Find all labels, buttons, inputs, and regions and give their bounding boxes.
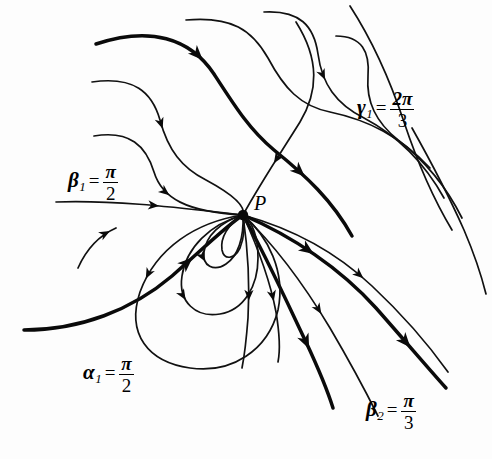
label-beta1-fraction: π2: [103, 162, 117, 203]
label-beta2-equals: =: [387, 399, 398, 420]
label-beta2-fraction: π3: [401, 391, 415, 432]
label-gamma1-symbol: γ: [357, 95, 366, 119]
streamline: [78, 228, 116, 268]
phase-portrait-canvas: [0, 0, 492, 459]
streamline: [181, 215, 258, 315]
label-beta1-subscript: 1: [79, 179, 86, 194]
label-alpha1-denominator: 2: [119, 375, 133, 395]
label-gamma1-denominator: 3: [390, 110, 414, 130]
label-gamma1-equals: =: [376, 97, 387, 118]
label-gamma1: γ1=2π3: [357, 90, 414, 131]
label-alpha1: α1=π2: [83, 355, 134, 396]
label-gamma1-fraction: 2π3: [390, 89, 414, 130]
label-beta2-symbol: β: [366, 397, 377, 421]
flow-direction-arrow-icon: [312, 302, 326, 316]
label-beta2-subscript: 2: [377, 408, 384, 423]
label-beta1-symbol: β: [68, 168, 79, 192]
flow-direction-arrow-icon: [316, 68, 329, 82]
streamline: [243, 215, 378, 416]
flow-direction-arrow-icon: [297, 333, 315, 352]
label-alpha1-fraction: π2: [119, 354, 133, 395]
flow-direction-arrow-icon: [142, 267, 155, 281]
label-beta2-denominator: 3: [401, 412, 415, 432]
label-gamma1-numerator: 2π: [390, 89, 414, 110]
label-beta1-equals: =: [89, 170, 100, 191]
streamline: [412, 128, 486, 294]
label-beta1: β1=π2: [68, 163, 118, 204]
label-alpha1-subscript: 1: [95, 371, 102, 386]
label-beta1-numerator: π: [103, 162, 117, 183]
flow-direction-arrow-icon: [267, 290, 278, 303]
phase-portrait-figure: P β1=π2 γ1=2π3 α1=π2 β2=π3: [0, 0, 492, 459]
label-alpha1-symbol: α: [83, 360, 95, 384]
flow-direction-arrow-icon: [155, 117, 167, 130]
streamline: [243, 22, 314, 215]
label-beta2: β2=π3: [366, 392, 416, 433]
singular-point-label: P: [254, 192, 266, 215]
label-alpha1-numerator: π: [119, 354, 133, 375]
label-alpha1-equals: =: [105, 362, 116, 383]
streamline: [136, 215, 280, 369]
label-beta2-numerator: π: [401, 391, 415, 412]
streamline: [24, 215, 243, 330]
label-beta1-denominator: 2: [103, 183, 117, 203]
singular-point-marker: [238, 210, 248, 220]
label-gamma1-subscript: 1: [366, 106, 373, 121]
